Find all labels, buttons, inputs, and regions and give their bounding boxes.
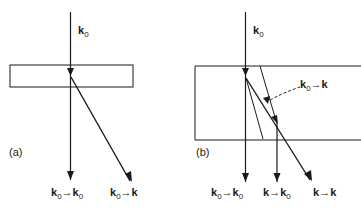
incident-label-a: k0 bbox=[78, 24, 89, 39]
diffracted-beam-b bbox=[246, 78, 310, 180]
arrow-head-icon bbox=[242, 173, 249, 182]
internal-annotation-b: k0→k bbox=[300, 78, 328, 93]
panel-a bbox=[10, 12, 133, 182]
secondary-beam-2 bbox=[260, 66, 277, 124]
beam-label-b-transmitted: k0→k0 bbox=[211, 186, 243, 201]
arrow-head-icon bbox=[67, 171, 74, 180]
arrow-head-icon bbox=[242, 68, 249, 76]
diagram-canvas bbox=[0, 0, 361, 209]
panel-label-a: (a) bbox=[9, 146, 22, 158]
dashed-pointer bbox=[270, 87, 300, 100]
incident-label-b: k0 bbox=[253, 24, 264, 39]
arrow-head-icon bbox=[67, 68, 74, 76]
secondary-beam-1 bbox=[246, 78, 263, 139]
beam-label-a-transmitted: k0→k0 bbox=[51, 186, 83, 201]
arrow-head-icon bbox=[274, 173, 281, 182]
beam-label-b-diffracted: k→k bbox=[313, 186, 336, 198]
panel-label-b: (b) bbox=[196, 146, 209, 158]
beam-label-b-rediffracted: k→k0 bbox=[263, 186, 291, 201]
beam-label-a-diffracted: k0→k bbox=[110, 186, 138, 201]
arrow-head-icon bbox=[263, 96, 270, 104]
panel-b bbox=[195, 12, 361, 182]
diffracted-beam-a bbox=[71, 77, 130, 181]
